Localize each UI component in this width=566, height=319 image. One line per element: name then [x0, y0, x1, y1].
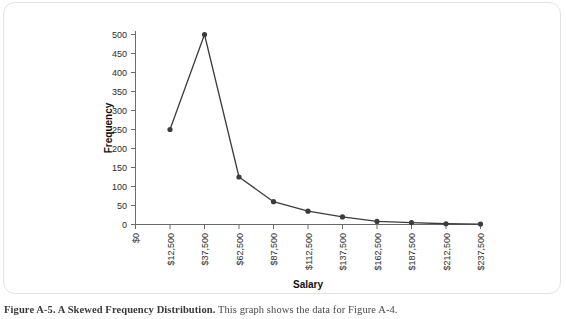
figure-caption: Figure A-5. A Skewed Frequency Distribut…	[4, 304, 560, 315]
x-tick-label: $87,500	[269, 233, 279, 266]
y-tick-label: 350	[112, 87, 127, 97]
page-root: 0 50 100 150 200 250 300 350 400 450 500	[0, 0, 566, 319]
data-point	[478, 222, 483, 227]
x-tick-label: $162,500	[373, 233, 383, 271]
data-point	[443, 221, 448, 226]
figure-card: 0 50 100 150 200 250 300 350 400 450 500	[3, 2, 561, 294]
x-tick-label: $112,500	[304, 233, 314, 270]
y-axis-title: Frequency	[103, 102, 114, 153]
data-point	[202, 32, 207, 37]
data-point	[167, 127, 172, 132]
y-axis-tick-labels: 0 50 100 150 200 250 300 350 400 450 500	[112, 30, 127, 230]
x-tick-label: $62,500	[235, 233, 245, 266]
data-point	[340, 214, 345, 219]
y-tick-label: 250	[112, 125, 127, 135]
y-tick-label: 100	[112, 182, 127, 192]
x-tick-label: $12,500	[166, 233, 176, 266]
x-axis-tick-labels: $0 $12,500 $37,500 $62,500 $87,500 $112,…	[131, 233, 486, 271]
data-point	[271, 199, 276, 204]
frequency-distribution-chart: 0 50 100 150 200 250 300 350 400 450 500	[4, 3, 562, 295]
chart-plot-area: 0 50 100 150 200 250 300 350 400 450 500	[4, 3, 562, 295]
x-tick-label: $237,500	[476, 233, 486, 271]
y-axis-ticks	[131, 35, 136, 225]
y-tick-label: 150	[112, 163, 127, 173]
y-tick-label: 300	[112, 106, 127, 116]
x-tick-label: $187,500	[407, 233, 417, 271]
y-tick-label: 450	[112, 49, 127, 59]
figure-caption-label: Figure A-5. A Skewed Frequency Distribut…	[4, 304, 215, 315]
y-tick-label: 500	[112, 30, 127, 40]
data-point	[409, 220, 414, 225]
data-point	[236, 174, 241, 179]
x-tick-label: $37,500	[200, 233, 210, 266]
y-tick-label: 400	[112, 68, 127, 78]
x-axis-title: Salary	[293, 279, 323, 290]
figure-caption-text: This graph shows the data for Figure A-4…	[215, 304, 397, 315]
data-point	[374, 219, 379, 224]
x-tick-label: $137,500	[338, 233, 348, 271]
x-axis-ticks	[136, 225, 481, 230]
x-tick-label: $0	[131, 233, 141, 243]
data-series-line	[170, 35, 481, 225]
data-series-markers	[167, 32, 483, 227]
y-tick-label: 0	[122, 220, 127, 230]
x-tick-label: $212,500	[442, 233, 452, 271]
data-point	[305, 209, 310, 214]
y-tick-label: 50	[117, 201, 127, 211]
y-tick-label: 200	[112, 144, 127, 154]
